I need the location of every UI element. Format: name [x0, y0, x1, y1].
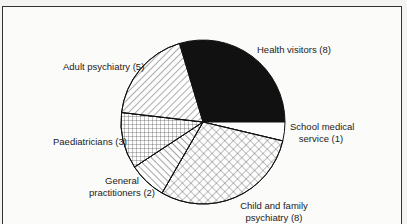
- label-line: service (1): [290, 133, 352, 145]
- label-health-visitors: Health visitors (8): [257, 44, 331, 56]
- label-line: Child and family: [238, 200, 310, 212]
- label-line: psychiatry (8): [238, 212, 310, 224]
- label-adult-psychiatry: Adult psychiatry (5): [63, 61, 144, 73]
- label-line: General: [88, 175, 156, 187]
- label-school-medical-service: School medical service (1): [290, 121, 352, 145]
- label-line: practitioners (2): [88, 187, 156, 199]
- pie-chart: [0, 0, 407, 224]
- label-child-family-psychiatry: Child and family psychiatry (8): [238, 200, 310, 224]
- label-line: School medical: [290, 121, 352, 133]
- label-paediatricians: Paediatricians (3): [53, 136, 127, 148]
- label-general-practitioners: General practitioners (2): [88, 175, 156, 199]
